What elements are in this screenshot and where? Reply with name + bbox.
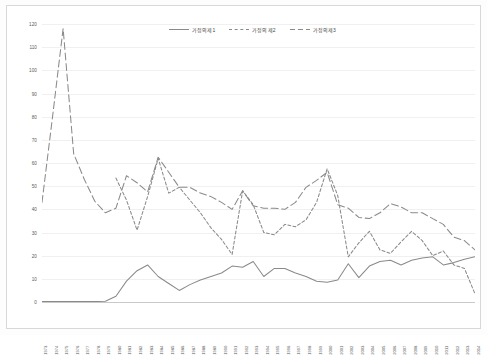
x-axis-tick-label: 1984	[154, 333, 158, 342]
x-axis-tick-label: 1980	[112, 333, 116, 342]
gridline	[42, 302, 475, 303]
legend-item-2[interactable]: 가정의제2	[229, 26, 275, 33]
x-axis-tick-label: 2012	[450, 333, 454, 342]
plot-wrapper: 0102030405060708090100110120 19731974197…	[14, 12, 477, 325]
plot-area	[42, 24, 475, 302]
legend-line-icon	[229, 29, 249, 30]
x-axis-tick-label: 1990	[217, 333, 221, 342]
x-axis-tick-label: 1998	[302, 333, 306, 342]
x-axis-tick-label: 1989	[207, 333, 211, 342]
y-axis-tick-label: 70	[32, 137, 37, 142]
x-axis-tick-label: 1985	[165, 333, 169, 342]
y-axis-tick-label: 80	[32, 114, 37, 119]
x-axis-tick-label: 2008	[407, 333, 411, 342]
x-axis-tick-label: 1994	[260, 333, 264, 342]
y-axis-tick-label: 100	[29, 68, 37, 73]
x-axis-tick-label: 1973	[38, 333, 42, 342]
x-axis-tick-label: 2009	[418, 333, 422, 342]
x-axis-tick-label: 1992	[238, 333, 242, 342]
x-axis-tick-label: 1979	[101, 333, 105, 342]
x-axis-tick-label: 1983	[143, 333, 147, 342]
x-axis-tick-label: 1978	[91, 333, 95, 342]
x-axis-tick-label: 1999	[312, 333, 316, 342]
x-axis-tick-label: 1977	[80, 333, 84, 342]
x-axis-tick-label: 1988	[196, 333, 200, 342]
series-line-1	[42, 257, 475, 302]
y-axis-tick-label: 0	[34, 300, 37, 305]
x-axis-tick-label: 1991	[228, 333, 232, 342]
x-axis-tick-label: 2010	[429, 333, 433, 342]
x-axis-tick-label: 2014	[471, 333, 475, 342]
series-line-3	[42, 29, 475, 250]
legend-label: 가정의제3	[313, 26, 336, 33]
x-axis-tick-label: 1997	[291, 333, 295, 342]
legend-item-3[interactable]: 가정의제3	[290, 26, 336, 33]
x-axis-tick-label: 2005	[376, 333, 380, 342]
x-axis-tick-label: 1981	[122, 333, 126, 342]
legend-label: 가정의제2	[252, 26, 275, 33]
x-axis-tick-label: 2004	[365, 333, 369, 342]
y-axis-tick-label: 120	[29, 22, 37, 27]
y-axis: 0102030405060708090100110120	[14, 24, 40, 302]
y-axis-tick-label: 50	[32, 184, 37, 189]
y-axis-tick-label: 20	[32, 253, 37, 258]
x-axis-tick-label: 1982	[133, 333, 137, 342]
x-axis-tick-label: 2013	[460, 333, 464, 342]
legend-line-icon	[290, 29, 310, 30]
x-axis-tick-label: 2001	[334, 333, 338, 342]
y-axis-tick-label: 90	[32, 91, 37, 96]
x-axis-tick-label: 1995	[270, 333, 274, 342]
x-axis-tick-label: 1996	[281, 333, 285, 342]
y-axis-tick-label: 60	[32, 161, 37, 166]
series-lines	[42, 24, 475, 302]
legend-label: 가정의제1	[192, 26, 215, 33]
x-axis-tick-label: 1975	[59, 333, 63, 342]
x-axis-tick-label: 1976	[69, 333, 73, 342]
y-axis-tick-label: 110	[29, 45, 37, 50]
x-axis-tick-label: 2007	[397, 333, 401, 342]
legend-item-1[interactable]: 가정의제1	[169, 26, 215, 33]
x-axis-tick-label: 2003	[355, 333, 359, 342]
x-axis-tick-label: 1986	[175, 333, 179, 342]
x-axis-tick-label: 1987	[186, 333, 190, 342]
x-axis: 1973197419751976197719781979198019811982…	[42, 304, 475, 338]
y-axis-tick-label: 40	[32, 207, 37, 212]
x-axis-tick-label: 2006	[386, 333, 390, 342]
y-axis-tick-label: 30	[32, 230, 37, 235]
y-axis-tick-label: 10	[32, 276, 37, 281]
x-axis-tick-label: 1974	[48, 333, 52, 342]
x-axis-tick-label: 2000	[323, 333, 327, 342]
x-axis-tick-label: 1993	[249, 333, 253, 342]
chart-legend: 가정의제1가정의제2가정의제3	[169, 26, 336, 33]
x-axis-tick-label: 2002	[344, 333, 348, 342]
x-axis-tick-label: 2011	[439, 333, 443, 342]
legend-line-icon	[169, 29, 189, 30]
